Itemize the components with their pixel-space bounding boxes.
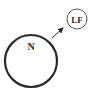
- node-lf-label: LF: [71, 15, 83, 25]
- edge-n-to-lf: [52, 28, 63, 38]
- diagram-canvas: N LF: [0, 0, 94, 95]
- node-lf: LF: [67, 9, 87, 29]
- arrow-icon: [52, 28, 63, 38]
- node-n: N: [5, 35, 57, 87]
- node-n-label: N: [27, 41, 35, 52]
